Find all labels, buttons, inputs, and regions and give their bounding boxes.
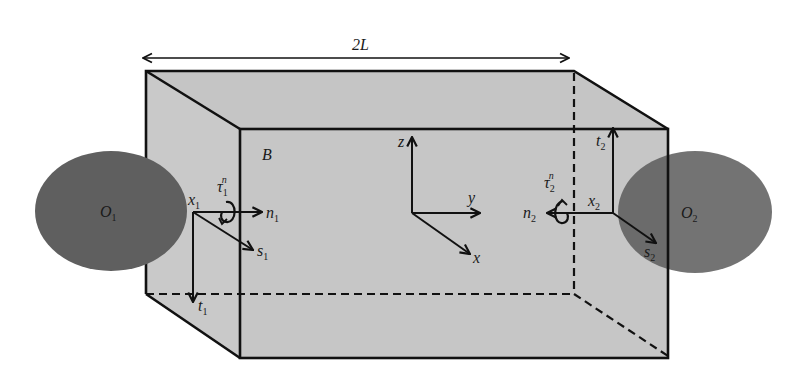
x-axis-label: x [472,249,480,266]
dimension-2l: 2L [143,36,569,58]
y-axis-label: y [466,189,476,207]
box-body [146,71,668,358]
box-contact-diagram: 2L B O1 O2 z y x [0,0,804,385]
dimension-label: 2L [352,36,369,53]
contact-object-o2 [618,151,772,273]
z-axis-label: z [397,133,405,150]
body-label: B [262,146,272,163]
